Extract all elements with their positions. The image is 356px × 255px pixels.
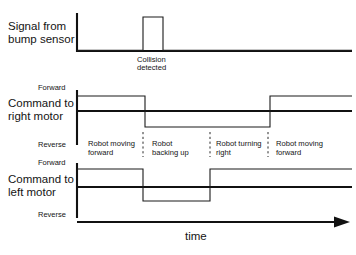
time-axis-label: time — [185, 230, 207, 242]
phase-label-4-line1: Robot moving — [276, 139, 323, 148]
panel-bump-sensor: Signal from bump sensor Collision detect… — [8, 13, 352, 72]
phase-label-1-line1: Robot moving — [88, 139, 135, 148]
phase-label-1-line2: forward — [88, 148, 113, 157]
right-motor-label-line1: Command to — [8, 97, 74, 109]
left-motor-waveform — [77, 169, 352, 201]
left-motor-label-line1: Command to — [8, 173, 74, 185]
collision-annotation-line2: detected — [137, 63, 166, 72]
right-motor-reverse-label: Reverse — [38, 140, 66, 149]
phase-label-2-line2: backing up — [152, 148, 189, 157]
diagram-canvas: Signal from bump sensor Collision detect… — [0, 0, 356, 255]
bump-sensor-waveform — [77, 17, 352, 50]
time-axis-arrow-icon — [334, 217, 350, 228]
phase-label-2-line1: Robot — [152, 139, 173, 148]
left-motor-forward-label: Forward — [38, 158, 66, 167]
left-motor-reverse-label: Reverse — [38, 210, 66, 219]
right-motor-label-line2: right motor — [8, 110, 63, 122]
panel-left-motor: Forward Reverse Command to left motor — [8, 158, 352, 219]
phase-label-4-line2: forward — [276, 148, 301, 157]
time-axis: time — [77, 217, 350, 243]
timing-diagram-figure: Signal from bump sensor Collision detect… — [0, 0, 356, 255]
right-motor-forward-label: Forward — [38, 83, 66, 92]
bump-sensor-label-line1: Signal from — [8, 20, 66, 32]
phase-label-3-line2: right — [216, 148, 232, 157]
phase-label-3-line1: Robot turning — [216, 139, 262, 148]
bump-sensor-label-line2: bump sensor — [8, 33, 75, 45]
phase-annotations: Robot moving forward Robot backing up Ro… — [88, 132, 323, 157]
left-motor-label-line2: left motor — [8, 186, 56, 198]
